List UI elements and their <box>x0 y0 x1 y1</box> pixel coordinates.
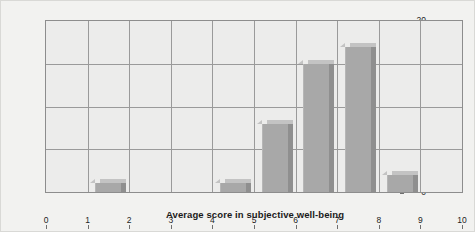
gridline-x-9 <box>420 21 421 192</box>
gridline-x-4 <box>212 21 213 192</box>
gridline-x-8 <box>379 21 380 192</box>
gridline-x-1 <box>88 21 89 192</box>
gridline-x-6 <box>296 21 297 192</box>
bar-top-bevel <box>298 60 303 64</box>
bar-top <box>267 120 293 124</box>
bar-top-bevel <box>340 43 345 47</box>
bar-top <box>350 43 376 47</box>
bar-bin-8-9[interactable] <box>387 175 413 192</box>
bar-side <box>413 175 418 192</box>
bar-top <box>308 60 334 64</box>
bar-face <box>345 47 372 192</box>
bar-side <box>371 47 376 192</box>
bar-side <box>121 183 126 192</box>
bar-face <box>262 124 289 192</box>
bar-top <box>100 179 126 183</box>
bar-bin-4-5[interactable] <box>220 183 246 192</box>
gridline-x-3 <box>171 21 172 192</box>
histogram-figure: Number of nations 20 15 10 5 0 <box>0 0 475 232</box>
bar-face <box>220 183 247 192</box>
bar-top-bevel <box>90 179 95 183</box>
bar-top <box>225 179 251 183</box>
bar-bin-1-2[interactable] <box>95 183 121 192</box>
bar-top <box>392 171 418 175</box>
bar-face <box>303 64 330 192</box>
bar-bin-6-7[interactable] <box>303 64 329 192</box>
x-axis-title: Average score in subjective well-being <box>45 209 465 220</box>
bar-side <box>246 183 251 192</box>
bar-side <box>288 124 293 192</box>
bar-top-bevel <box>215 179 220 183</box>
bar-bin-5-6[interactable] <box>262 124 288 192</box>
bar-side <box>329 64 334 192</box>
bar-top-bevel <box>257 120 262 124</box>
bar-face <box>387 175 414 192</box>
plot-area: 0 1 2 3 4 5 6 7 8 9 10 <box>45 20 463 193</box>
gridline-x-2 <box>129 21 130 192</box>
bar-bin-7-8[interactable] <box>345 47 371 192</box>
gridline-x-5 <box>254 21 255 192</box>
bar-face <box>95 183 122 192</box>
gridline-x-7 <box>337 21 338 192</box>
bar-top-bevel <box>382 171 387 175</box>
